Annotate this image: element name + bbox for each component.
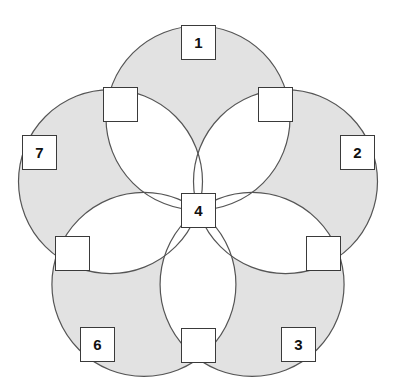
node-box-1-label: 1: [194, 35, 202, 50]
node-box-blank-mid-right[interactable]: [306, 236, 341, 271]
node-box-1[interactable]: 1: [181, 25, 216, 60]
diagram-canvas: 123674: [0, 0, 398, 387]
node-box-7[interactable]: 7: [22, 135, 57, 170]
node-box-blank-top-left[interactable]: [103, 87, 138, 122]
node-box-4-center[interactable]: 4: [181, 193, 216, 228]
node-box-blank-mid-left[interactable]: [55, 236, 90, 271]
node-box-6-label: 6: [93, 337, 101, 352]
node-box-2[interactable]: 2: [340, 135, 375, 170]
node-box-blank-top-right[interactable]: [258, 87, 293, 122]
node-box-blank-bottom[interactable]: [181, 328, 216, 363]
node-box-3[interactable]: 3: [281, 327, 316, 362]
node-box-2-label: 2: [353, 145, 361, 160]
node-box-3-label: 3: [294, 337, 302, 352]
node-box-4-center-label: 4: [194, 203, 202, 218]
node-box-7-label: 7: [35, 145, 43, 160]
node-box-6[interactable]: 6: [80, 327, 115, 362]
